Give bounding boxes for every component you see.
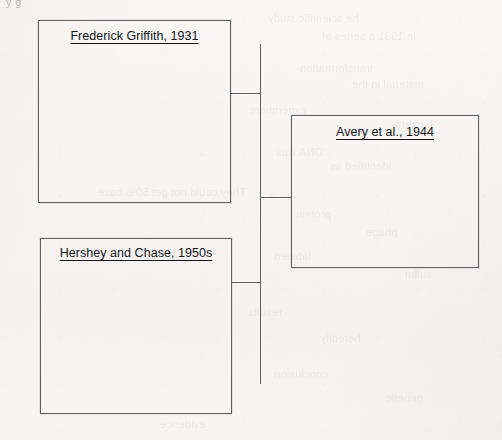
node-box-avery[interactable]: Avery et al., 1944	[291, 115, 479, 268]
connector-stub-hershey	[231, 282, 261, 283]
bleed-through-text: in 1931 a series of	[322, 30, 416, 42]
node-label-griffith: Frederick Griffith, 1931	[39, 29, 230, 44]
bleed-through-text: evidence	[160, 418, 206, 430]
bleed-through-text: material in the	[352, 78, 424, 90]
bleed-through-text: he scientific study	[268, 12, 359, 24]
bleed-through-text: conclusion	[274, 368, 328, 380]
connector-trunk-vertical	[260, 44, 261, 384]
node-box-hershey[interactable]: Hershey and Chase, 1950s	[40, 238, 232, 414]
bleed-through-text: sulfur	[404, 268, 432, 280]
node-label-hershey: Hershey and Chase, 1950s	[41, 246, 231, 261]
bleed-through-text: results	[248, 306, 282, 318]
bleed-through-text: transformation	[300, 62, 373, 74]
bleed-through-text: genetic	[386, 392, 423, 404]
worksheet-page: y g he scientific studyin 1931 a series …	[0, 0, 502, 440]
node-box-griffith[interactable]: Frederick Griffith, 1931	[38, 20, 231, 203]
cropped-header-fragment: y g	[6, 0, 22, 8]
connector-stub-griffith	[231, 93, 261, 94]
node-label-avery: Avery et al., 1944	[292, 125, 478, 140]
bleed-through-text: heredity	[320, 332, 361, 344]
connector-stub-avery	[260, 197, 292, 198]
